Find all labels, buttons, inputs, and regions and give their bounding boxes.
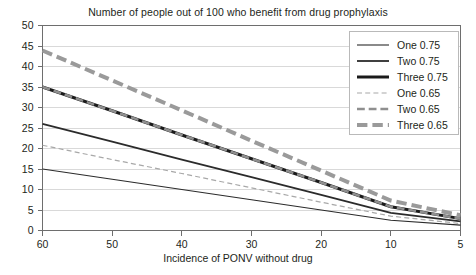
- x-axis-tick-label: 10: [385, 238, 397, 250]
- x-axis-ticks: [43, 231, 461, 236]
- legend-label: Two 0.65: [397, 103, 440, 115]
- y-axis-tick-label: 25: [22, 122, 34, 134]
- legend-item: Two 0.65: [350, 101, 458, 117]
- y-axis-tick-label: 20: [22, 142, 34, 154]
- x-axis-tick-label: 20: [315, 238, 327, 250]
- x-axis-title: Incidence of PONV without drug: [0, 252, 476, 264]
- y-axis-tick-label: 5: [28, 204, 34, 216]
- chart-container: Number of people out of 100 who benefit …: [0, 0, 476, 275]
- legend-label: Three 0.75: [397, 71, 448, 83]
- legend-item: One 0.65: [350, 85, 458, 101]
- legend-label: Three 0.65: [397, 119, 448, 131]
- legend-item: One 0.75: [350, 37, 458, 53]
- legend-label: One 0.75: [397, 39, 440, 51]
- y-axis-tick-label: 35: [22, 81, 34, 93]
- legend-label: Two 0.75: [397, 55, 440, 67]
- legend-item: Two 0.75: [350, 53, 458, 69]
- y-axis-tick-label: 40: [22, 60, 34, 72]
- series-line-3: [43, 145, 461, 223]
- legend-swatch-icon: [356, 39, 390, 51]
- y-axis-ticks: [38, 26, 43, 231]
- y-axis-tick-label: 45: [22, 40, 34, 52]
- legend-swatch-icon: [356, 119, 390, 131]
- legend-swatch-icon: [356, 71, 390, 83]
- legend-swatch-icon: [356, 103, 390, 115]
- legend-item: Three 0.65: [350, 117, 458, 133]
- y-axis-tick-label: 30: [22, 101, 34, 113]
- y-axis-tick-label: 50: [22, 19, 34, 31]
- x-axis-tick-label: 30: [246, 238, 258, 250]
- legend-swatch-icon: [356, 87, 390, 99]
- legend-label: One 0.65: [397, 87, 440, 99]
- legend-swatch-icon: [356, 55, 390, 67]
- x-axis-tick-label: 40: [176, 238, 188, 250]
- x-axis-tick-labels: 6050403020105: [37, 238, 464, 250]
- x-axis-tick-label: 5: [458, 238, 464, 250]
- y-axis-tick-labels: 05101520253035404550: [22, 19, 34, 236]
- y-axis-tick-label: 0: [28, 224, 34, 236]
- chart-legend: One 0.75Two 0.75Three 0.75One 0.65Two 0.…: [349, 31, 459, 135]
- x-axis-tick-label: 50: [106, 238, 118, 250]
- legend-item: Three 0.75: [350, 69, 458, 85]
- y-axis-tick-label: 10: [22, 183, 34, 195]
- y-axis-tick-label: 15: [22, 163, 34, 175]
- x-axis-tick-label: 60: [37, 238, 49, 250]
